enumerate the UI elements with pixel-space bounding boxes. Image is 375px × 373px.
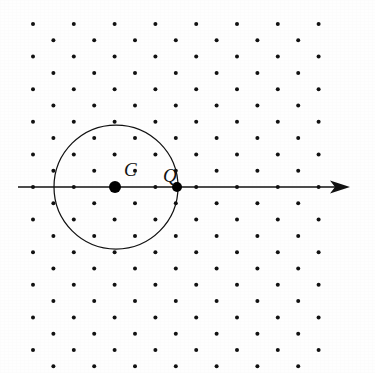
- lattice-dot: [317, 152, 321, 156]
- lattice-dot: [194, 283, 198, 287]
- lattice-dot: [72, 315, 76, 319]
- lattice-dot: [31, 250, 35, 254]
- lattice-dot: [215, 38, 219, 42]
- lattice-dot: [235, 348, 239, 352]
- lattice-dot: [194, 348, 198, 352]
- lattice-dot: [255, 234, 259, 238]
- lattice-dot: [133, 104, 137, 108]
- lattice-dot: [276, 315, 280, 319]
- lattice-dot: [255, 267, 259, 271]
- lattice-dot: [317, 348, 321, 352]
- lattice-dot: [255, 71, 259, 75]
- lattice-dot: [31, 87, 35, 91]
- lattice-dot: [215, 71, 219, 75]
- lattice-dot: [296, 332, 300, 336]
- lattice-dot: [276, 218, 280, 222]
- lattice-dot: [153, 152, 157, 156]
- lattice-dot: [51, 201, 55, 205]
- lattice-dot: [317, 283, 321, 287]
- lattice-dot: [113, 55, 117, 59]
- lattice-dot: [92, 136, 96, 140]
- lattice-dot: [296, 299, 300, 303]
- lattice-dot: [235, 218, 239, 222]
- lattice-dot: [51, 38, 55, 42]
- lattice-dot: [72, 87, 76, 91]
- lattice-dot: [174, 234, 178, 238]
- lattice-circle-figure: CQ: [0, 0, 375, 373]
- lattice-dot: [133, 332, 137, 336]
- lattice-dot: [255, 38, 259, 42]
- lattice-dot: [113, 120, 117, 124]
- lattice-dot: [72, 152, 76, 156]
- lattice-dot: [215, 332, 219, 336]
- lattice-dot: [133, 234, 137, 238]
- lattice-dot: [72, 120, 76, 124]
- lattice-dot: [174, 104, 178, 108]
- lattice-dot: [92, 234, 96, 238]
- lattice-dot: [255, 364, 259, 368]
- lattice-dot: [276, 87, 280, 91]
- lattice-dot: [194, 250, 198, 254]
- lattice-dot: [174, 136, 178, 140]
- lattice-dot: [194, 218, 198, 222]
- lattice-dot: [194, 55, 198, 59]
- lattice-dot: [51, 234, 55, 238]
- lattice-dot: [153, 87, 157, 91]
- lattice-dot: [255, 104, 259, 108]
- lattice-dot: [153, 120, 157, 124]
- lattice-dot: [92, 364, 96, 368]
- lattice-dot: [31, 152, 35, 156]
- lattice-dot: [215, 234, 219, 238]
- lattice-dot: [255, 169, 259, 173]
- lattice-dot: [51, 136, 55, 140]
- lattice-dot: [174, 299, 178, 303]
- lattice-dot: [113, 22, 117, 26]
- lattice-dot: [215, 267, 219, 271]
- lattice-dot: [255, 332, 259, 336]
- lattice-dot: [72, 250, 76, 254]
- lattice-dot: [51, 169, 55, 173]
- lattice-dot: [317, 250, 321, 254]
- lattice-dot: [215, 299, 219, 303]
- lattice-dot: [317, 315, 321, 319]
- lattice-dot: [174, 71, 178, 75]
- lattice-dot: [276, 22, 280, 26]
- lattice-dot: [113, 152, 117, 156]
- lattice-dot: [113, 315, 117, 319]
- lattice-dot: [113, 218, 117, 222]
- lattice-dot: [153, 315, 157, 319]
- lattice-dot: [51, 364, 55, 368]
- lattice-dot: [317, 55, 321, 59]
- lattice-dot: [194, 315, 198, 319]
- lattice-dot: [92, 71, 96, 75]
- lattice-dot: [133, 201, 137, 205]
- lattice-dot: [92, 267, 96, 271]
- lattice-dot: [72, 22, 76, 26]
- lattice-dot: [133, 299, 137, 303]
- figure-canvas: CQ: [0, 0, 375, 373]
- lattice-dot: [276, 55, 280, 59]
- lattice-dot: [31, 283, 35, 287]
- lattice-dot: [235, 87, 239, 91]
- lattice-dot: [72, 218, 76, 222]
- lattice-dot: [153, 250, 157, 254]
- lattice-dot: [317, 218, 321, 222]
- lattice-dot: [153, 218, 157, 222]
- lattice-dot: [72, 283, 76, 287]
- lattice-dot: [174, 38, 178, 42]
- lattice-dot: [235, 152, 239, 156]
- lattice-dot: [235, 22, 239, 26]
- marked-point-c: [109, 181, 121, 193]
- lattice-dot: [174, 364, 178, 368]
- lattice-dot: [92, 38, 96, 42]
- lattice-dot: [215, 136, 219, 140]
- lattice-dot: [255, 299, 259, 303]
- lattice-dot: [72, 348, 76, 352]
- lattice-dot: [113, 87, 117, 91]
- lattice-dot: [92, 332, 96, 336]
- lattice-dot: [317, 22, 321, 26]
- lattice-dot: [31, 218, 35, 222]
- lattice-dot: [113, 250, 117, 254]
- lattice-dot: [153, 348, 157, 352]
- lattice-dot: [296, 267, 300, 271]
